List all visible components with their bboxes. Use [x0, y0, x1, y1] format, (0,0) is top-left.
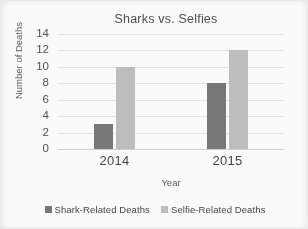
- bar: [94, 124, 113, 149]
- bar: [116, 67, 135, 149]
- chart-title: Sharks vs. Selfies: [41, 12, 291, 26]
- x-axis-title: Year: [58, 177, 284, 188]
- y-axis-tick-label: 0: [9, 143, 49, 155]
- y-axis-tick-label: 10: [9, 61, 49, 73]
- bar-group: [171, 34, 284, 149]
- bar: [207, 83, 226, 149]
- square-swatch-light-icon: [161, 206, 168, 213]
- legend-item-label: Selfie-Related Deaths: [171, 204, 266, 215]
- y-axis-tick-label: 12: [9, 44, 49, 56]
- gridline: [58, 149, 284, 150]
- chart-legend: Shark-Related DeathsSelfie-Related Death…: [1, 204, 308, 215]
- y-axis-tick-labels: 14121086420: [9, 34, 49, 149]
- y-axis-tick-label: 8: [9, 77, 49, 89]
- square-swatch-dark-icon: [45, 206, 52, 213]
- legend-item[interactable]: Shark-Related Deaths: [45, 204, 150, 215]
- x-axis-tick-label: 2014: [75, 153, 155, 168]
- bar-chart: Sharks vs. Selfies Number of Deaths 1412…: [0, 0, 308, 229]
- legend-item[interactable]: Selfie-Related Deaths: [161, 204, 266, 215]
- y-axis-tick-label: 6: [9, 94, 49, 106]
- bar: [229, 50, 248, 149]
- y-axis-tick-label: 4: [9, 110, 49, 122]
- legend-item-label: Shark-Related Deaths: [55, 204, 150, 215]
- bar-group: [58, 34, 171, 149]
- x-axis-tick-label: 2015: [188, 153, 268, 168]
- plot-area: [58, 34, 284, 149]
- y-axis-tick-label: 2: [9, 127, 49, 139]
- y-axis-tick-label: 14: [9, 28, 49, 40]
